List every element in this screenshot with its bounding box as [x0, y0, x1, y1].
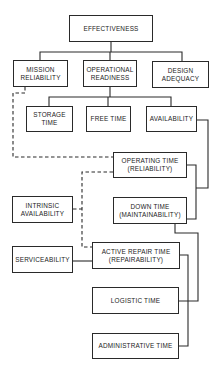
connector-availability-times	[187, 120, 208, 219]
node-active-repair-time: ACTIVE REPAIR TIME (REPAIRABILITY)	[92, 242, 180, 269]
node-label: OPERATING TIME	[122, 157, 179, 165]
node-operational-readiness: OPERATIONAL READINESS	[83, 60, 137, 87]
node-label: ADMINISTRATIVE TIME	[99, 342, 173, 350]
node-label: STORAGE	[33, 111, 66, 119]
node-label: (RELIABILITY)	[128, 165, 173, 173]
node-design-adequacy: DESIGN ADEQUACY	[152, 61, 209, 88]
node-label: ACTIVE REPAIR TIME	[102, 248, 171, 256]
node-label: EFFECTIVENESS	[83, 25, 138, 33]
node-label: MISSION	[26, 66, 54, 74]
node-label: (MAINTAINABILITY)	[119, 211, 181, 219]
node-mission-reliability: MISSION RELIABILITY	[13, 60, 68, 87]
node-label: AVAILABILITY	[21, 210, 64, 218]
connector-readiness-children	[49, 87, 171, 106]
node-label: AVAILABILITY	[150, 115, 193, 123]
node-logistic-time: LOGISTIC TIME	[92, 287, 179, 314]
node-label: LOGISTIC TIME	[111, 297, 160, 305]
connector-effectiveness-children	[40, 42, 182, 61]
node-operating-time: OPERATING TIME (RELIABILITY)	[113, 152, 187, 178]
node-label: DESIGN	[168, 67, 194, 75]
node-label: RELIABILITY	[20, 74, 60, 82]
node-label: TIME	[41, 119, 57, 127]
connector-lines	[0, 0, 223, 370]
node-label: FREE TIME	[91, 115, 127, 123]
node-storage-time: STORAGE TIME	[26, 106, 73, 132]
node-label: DOWN TIME	[131, 203, 170, 211]
node-availability: AVAILABILITY	[146, 106, 197, 132]
node-label: ADEQUACY	[162, 75, 199, 83]
node-label: (REPAIRABILITY)	[109, 256, 163, 264]
node-free-time: FREE TIME	[86, 106, 131, 132]
node-label: SERVICEABILITY	[15, 256, 70, 264]
node-effectiveness: EFFECTIVENESS	[69, 15, 153, 42]
node-intrinsic-availability: INTRINSIC AVAILABILITY	[12, 196, 73, 223]
node-serviceability: SERVICEABILITY	[12, 246, 73, 273]
node-label: INTRINSIC	[26, 202, 60, 210]
node-down-time: DOWN TIME (MAINTAINABILITY)	[113, 197, 187, 224]
node-administrative-time: ADMINISTRATIVE TIME	[92, 333, 179, 359]
node-label: READINESS	[91, 74, 130, 82]
dashed-operating-repair	[82, 172, 113, 247]
node-label: OPERATIONAL	[86, 66, 133, 74]
